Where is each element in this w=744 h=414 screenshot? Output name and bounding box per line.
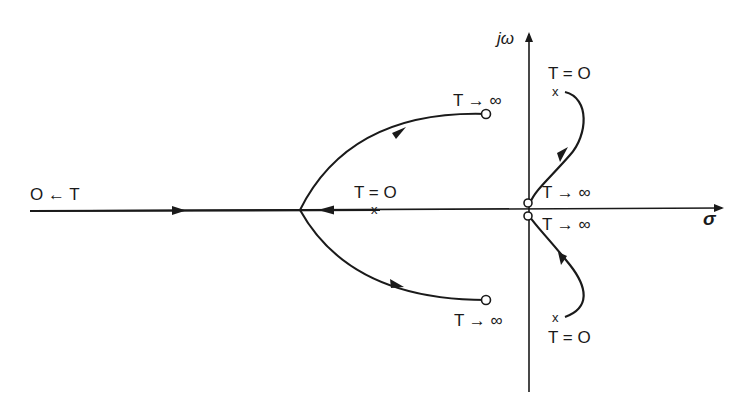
zero-marker-icon: [524, 212, 532, 220]
root-locus-diagram: x x x jω σ O ← T T → ∞ T → ∞ T = O T = O…: [0, 0, 744, 414]
upper-pole-marker-icon: x: [552, 84, 559, 99]
upper-complex-pole-label: T = O: [548, 64, 591, 83]
direction-arrow-icon: [318, 206, 334, 215]
lower-branch-end-label: T → ∞: [454, 311, 503, 330]
real-pole-marker-icon: x: [371, 202, 378, 217]
upper-branch-end-label: T → ∞: [453, 91, 502, 110]
direction-arrow-icon: [172, 206, 186, 215]
upper-origin-zero-label: T → ∞: [542, 183, 591, 202]
real-axis-locus: [30, 206, 380, 216]
lower-branch: [300, 210, 491, 305]
imag-axis-label: jω: [495, 29, 514, 48]
zero-marker-icon: [482, 296, 491, 305]
zero-marker-icon: [524, 199, 532, 207]
zero-marker-icon: [482, 110, 491, 119]
lower-origin-zero-label: T → ∞: [542, 215, 591, 234]
direction-arrow-icon: [390, 279, 404, 288]
lower-pole-marker-icon: x: [552, 310, 559, 325]
lower-complex-pole-label: T = O: [548, 328, 591, 347]
real-pole-label: T = O: [354, 183, 397, 202]
left-end-label: O ← T: [30, 185, 80, 204]
direction-arrow-icon: [392, 127, 406, 139]
real-axis-label: σ: [703, 208, 717, 229]
